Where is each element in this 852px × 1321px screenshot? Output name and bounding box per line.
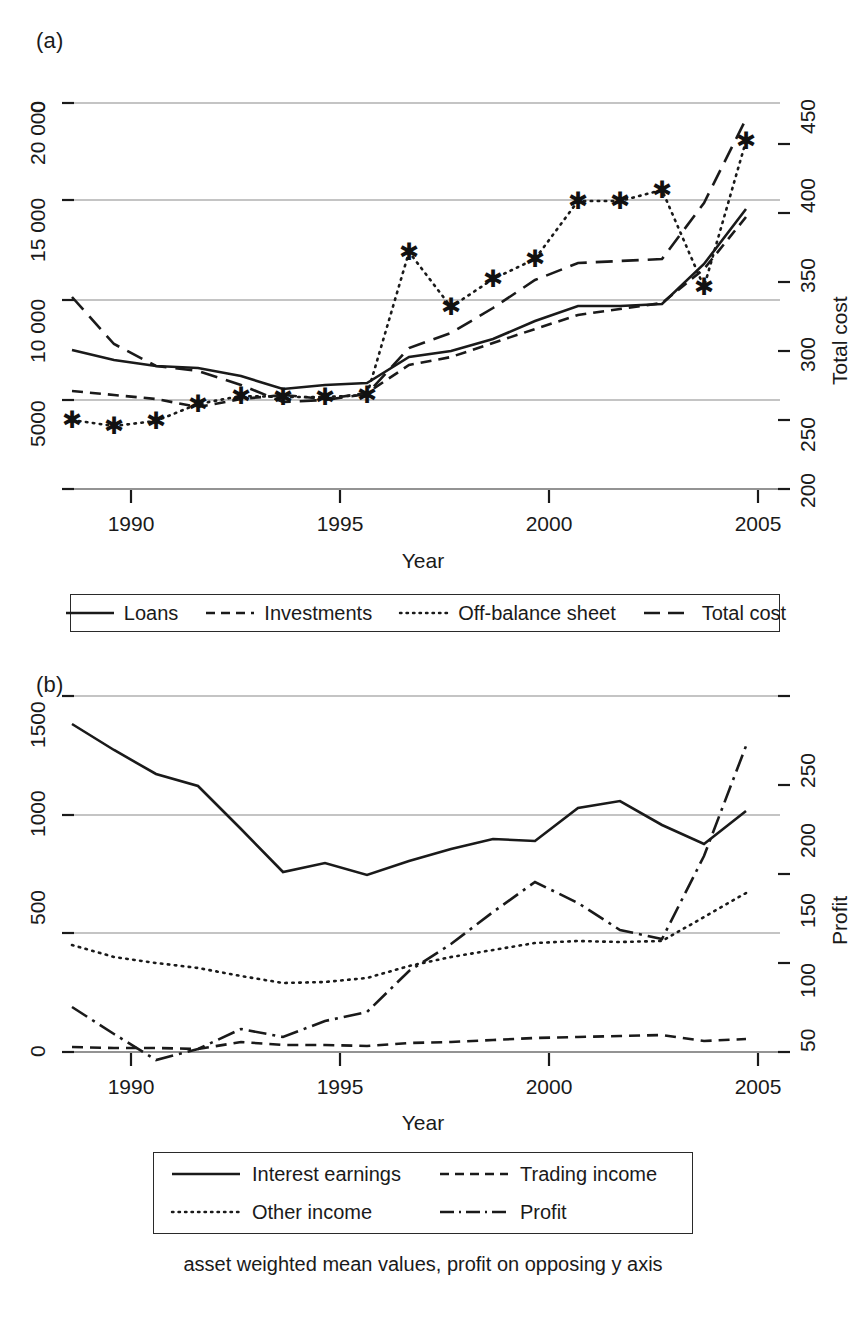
- panel-a-x-ticks: [131, 490, 758, 503]
- series-interest-earnings: [72, 724, 746, 875]
- legend-swatch-longdash: [642, 607, 694, 619]
- svg-text:✱: ✱: [62, 406, 82, 433]
- series-off-balance-sheet: [72, 141, 746, 426]
- panel-a-xtick-1995: 1995: [290, 512, 390, 536]
- legend-item-off-balance-sheet[interactable]: Off-balance sheet: [398, 602, 616, 625]
- svg-text:✱: ✱: [357, 381, 377, 408]
- legend-label-off-balance-sheet: Off-balance sheet: [458, 602, 616, 625]
- legend-item-other-income[interactable]: Other income: [168, 1201, 436, 1224]
- svg-text:✱: ✱: [441, 293, 461, 320]
- series-loans: [72, 209, 746, 389]
- panel-b-x-ticks: [131, 1053, 758, 1066]
- svg-text:✱: ✱: [736, 127, 756, 154]
- svg-text:✱: ✱: [231, 382, 251, 409]
- panel-b-gridlines: [72, 696, 780, 933]
- panel-b-xtick-2000: 2000: [499, 1075, 599, 1099]
- legend-label-other-income: Other income: [252, 1201, 372, 1224]
- svg-text:✱: ✱: [273, 383, 293, 410]
- svg-text:✱: ✱: [188, 390, 208, 417]
- legend-label-loans: Loans: [124, 602, 179, 625]
- figure-caption: asset weighted mean values, profit on op…: [0, 1253, 846, 1276]
- legend-label-trading-income: Trading income: [520, 1163, 657, 1186]
- off-balance-sheet-markers: ✱ ✱ ✱ ✱ ✱ ✱ ✱ ✱ ✱ ✱ ✱ ✱ ✱ ✱ ✱ ✱ ✱: [62, 127, 756, 439]
- legend-swatch-solid: [168, 1168, 244, 1180]
- legend-label-interest-earnings: Interest earnings: [252, 1163, 401, 1186]
- svg-text:✱: ✱: [525, 245, 545, 272]
- panel-a-xtick-1990: 1990: [81, 512, 181, 536]
- legend-item-trading-income[interactable]: Trading income: [436, 1163, 657, 1186]
- panel-b: (b) 0 500 1000 1500 50 100 150 200 250 P…: [0, 640, 846, 1321]
- legend-swatch-dashed: [436, 1168, 512, 1180]
- svg-text:✱: ✱: [315, 383, 335, 410]
- legend-item-investments[interactable]: Investments: [204, 602, 372, 625]
- panel-a-plot: ✱ ✱ ✱ ✱ ✱ ✱ ✱ ✱ ✱ ✱ ✱ ✱ ✱ ✱ ✱ ✱ ✱: [0, 0, 846, 640]
- series-profit: [72, 746, 746, 1060]
- legend-swatch-dotted: [398, 607, 450, 619]
- panel-a-legend: Loans Investments Off-balance sheet: [70, 594, 780, 632]
- legend-swatch-dotted: [168, 1206, 244, 1218]
- legend-item-interest-earnings[interactable]: Interest earnings: [168, 1163, 436, 1186]
- legend-label-profit: Profit: [520, 1201, 567, 1224]
- panel-b-right-ticks: [778, 696, 790, 1052]
- legend-label-total-cost: Total cost: [702, 602, 786, 625]
- panel-b-xtick-1990: 1990: [81, 1075, 181, 1099]
- panel-a: (a) 0 5000 10 000 15 000 20 000 200 250 …: [0, 0, 846, 640]
- panel-b-legend: Interest earnings Trading income: [153, 1152, 693, 1234]
- svg-text:✱: ✱: [610, 187, 630, 214]
- svg-text:✱: ✱: [652, 176, 672, 203]
- svg-text:✱: ✱: [146, 407, 166, 434]
- series-trading-income: [72, 1035, 746, 1049]
- legend-item-loans[interactable]: Loans: [64, 602, 179, 625]
- svg-text:✱: ✱: [694, 273, 714, 300]
- legend-item-total-cost[interactable]: Total cost: [642, 602, 786, 625]
- svg-text:✱: ✱: [104, 412, 124, 439]
- panel-b-x-axis-title: Year: [0, 1111, 846, 1135]
- legend-label-investments: Investments: [264, 602, 372, 625]
- panel-a-xtick-2005: 2005: [708, 512, 808, 536]
- panel-b-xtick-1995: 1995: [290, 1075, 390, 1099]
- panel-a-right-ticks: [778, 144, 790, 489]
- panel-b-left-ticks: [62, 696, 74, 1052]
- legend-swatch-dashdot: [436, 1206, 512, 1218]
- panel-a-xtick-2000: 2000: [499, 512, 599, 536]
- legend-swatch-dashed: [204, 607, 256, 619]
- panel-a-x-axis-title: Year: [0, 549, 846, 573]
- svg-text:✱: ✱: [568, 187, 588, 214]
- svg-text:✱: ✱: [399, 238, 419, 265]
- legend-swatch-solid: [64, 607, 116, 619]
- svg-text:✱: ✱: [483, 265, 503, 292]
- legend-item-profit[interactable]: Profit: [436, 1201, 567, 1224]
- panel-b-xtick-2005: 2005: [708, 1075, 808, 1099]
